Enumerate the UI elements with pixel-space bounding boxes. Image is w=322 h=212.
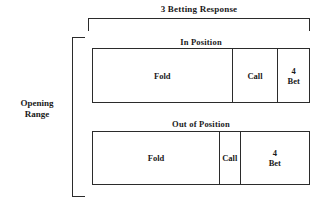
betting-response-diagram: 3 Betting Response Opening Range In Posi… (0, 0, 322, 212)
segment-call-out-of-position: Call (219, 132, 240, 184)
range-bar-in-position: Fold Call 4 Bet (92, 48, 310, 103)
segment-label: Fold (148, 153, 165, 163)
segment-label-line2: Bet (287, 76, 299, 86)
segment-4bet-out-of-position: 4 Bet (240, 132, 309, 184)
top-bracket (88, 18, 310, 31)
segment-label: Call (222, 153, 237, 163)
row-heading-out-of-position: Out of Position (92, 119, 310, 129)
segment-label: 4 (287, 66, 299, 76)
diagram-title: 3 Betting Response (88, 4, 310, 15)
range-bar-out-of-position: Fold Call 4 Bet (92, 131, 310, 185)
segment-label-line2: Bet (269, 158, 281, 168)
segment-label: Fold (154, 71, 171, 81)
segment-label: 4 (269, 148, 281, 158)
opening-range-label: Opening Range (6, 98, 68, 120)
segment-call-in-position: Call (232, 49, 278, 102)
segment-fold-in-position: Fold (93, 49, 232, 102)
segment-4bet-in-position: 4 Bet (277, 49, 309, 102)
segment-label: Call (247, 71, 262, 81)
opening-range-label-line2: Range (25, 109, 50, 119)
row-heading-in-position: In Position (92, 37, 310, 47)
opening-range-label-line1: Opening (20, 98, 53, 108)
segment-fold-out-of-position: Fold (93, 132, 219, 184)
opening-range-bracket (72, 37, 85, 197)
